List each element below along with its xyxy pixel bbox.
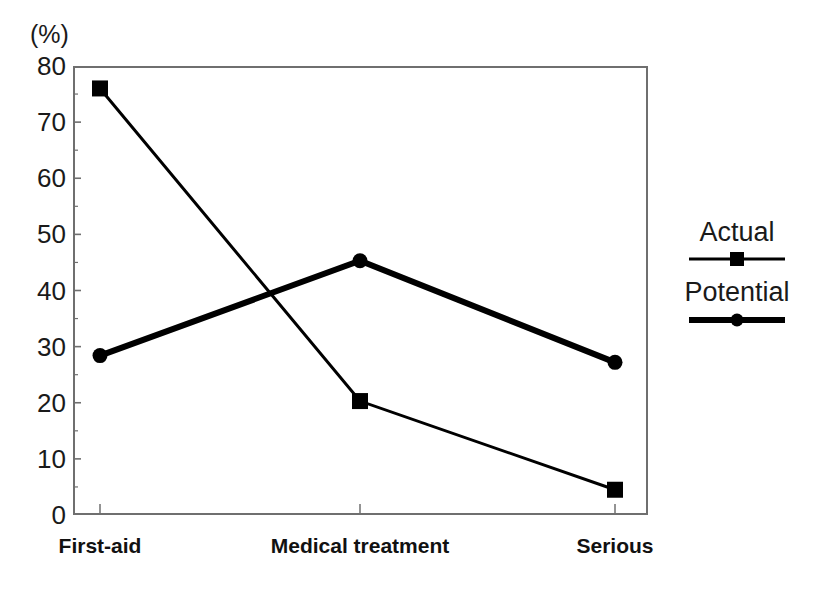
series-line — [100, 88, 615, 489]
legend-marker — [731, 313, 744, 326]
y-axis-ticks — [73, 94, 81, 487]
data-point-marker — [353, 253, 368, 268]
x-axis-ticks — [100, 504, 615, 515]
data-point-marker — [92, 80, 108, 96]
legend-sample-actual — [662, 246, 812, 272]
data-point-marker — [608, 355, 623, 370]
series-potential — [93, 253, 623, 370]
legend-entry-actual: Actual — [662, 218, 812, 272]
chart-legend: ActualPotential — [662, 218, 812, 339]
series-line — [100, 261, 615, 363]
chart-page: (%) 01020304050607080 First-aidMedical t… — [0, 0, 817, 594]
data-point-marker — [93, 348, 108, 363]
data-point-marker — [607, 482, 623, 498]
legend-label-actual: Actual — [662, 218, 812, 246]
legend-label-potential: Potential — [662, 278, 812, 306]
legend-entry-potential: Potential — [662, 278, 812, 332]
series-actual — [92, 80, 623, 497]
legend-sample-potential — [662, 307, 812, 333]
legend-marker — [730, 252, 744, 266]
series-layer — [92, 80, 623, 497]
data-point-marker — [352, 393, 368, 409]
